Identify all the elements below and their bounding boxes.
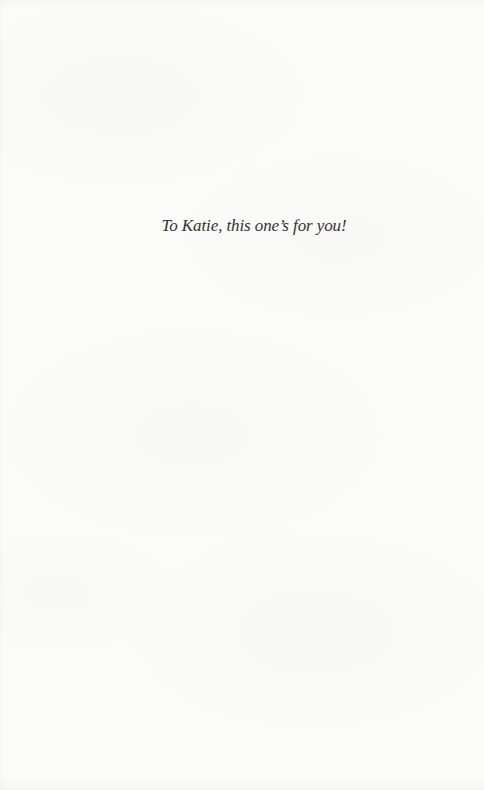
dedication-text: To Katie, this one’s for you! [12, 213, 484, 239]
book-page: To Katie, this one’s for you! [0, 0, 484, 790]
